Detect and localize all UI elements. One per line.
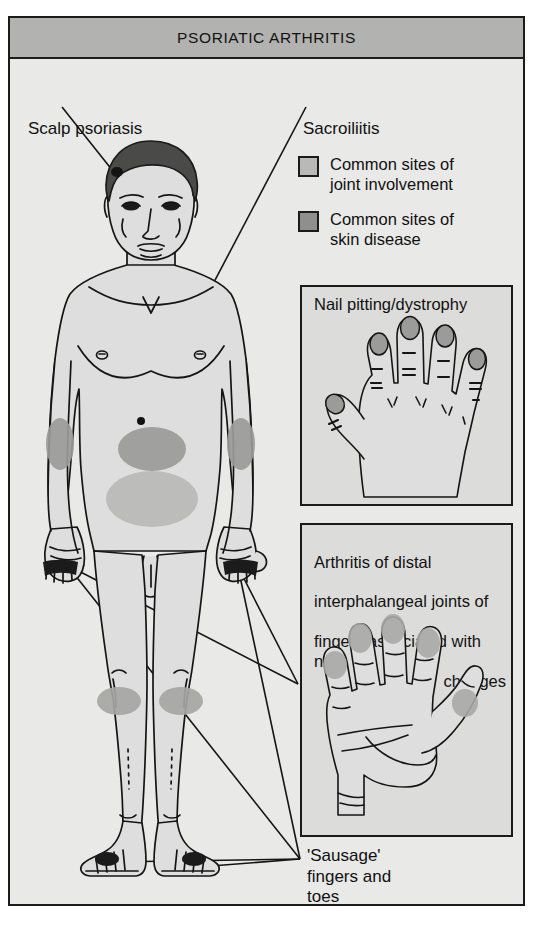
- upper-abdomen-patch: [118, 427, 186, 471]
- skin-disease-swatch: [298, 211, 319, 232]
- joint-involvement-swatch: [298, 156, 319, 177]
- sacroiliac-patch: [106, 471, 198, 527]
- panel-dip-arthritis: Arthritis of distal interphalangeal join…: [300, 523, 513, 837]
- left-foot-toe-marks: [95, 852, 119, 866]
- dorsal-hand-illustration: [302, 287, 511, 504]
- label-scalp-psoriasis: Scalp psoriasis: [28, 119, 142, 140]
- right-knee-patch: [159, 687, 203, 715]
- figure-title: PSORIATIC ARTHRITIS: [177, 29, 356, 47]
- figure-frame: PSORIATIC ARTHRITIS: [8, 16, 525, 906]
- legend-item-joint-involvement: Common sites of joint involvement: [298, 154, 513, 195]
- label-sacroiliitis: Sacroiliitis: [303, 119, 380, 140]
- legend-label-skin-disease: Common sites of skin disease: [330, 209, 454, 250]
- label-sausage-fingers-toes: 'Sausage' fingers and toes: [307, 846, 391, 908]
- panel-nail-pitting: Nail pitting/dystrophy: [300, 285, 513, 506]
- right-elbow-patch: [227, 418, 255, 470]
- figure-title-bar: PSORIATIC ARTHRITIS: [10, 18, 523, 59]
- leader-right-hand-sausage: [238, 567, 300, 859]
- sacroiliac-anchor-dot: [137, 417, 145, 425]
- palmar-hand-illustration: [302, 525, 511, 835]
- scalp-lesion-mark: [111, 167, 123, 177]
- psoriatic-arthritis-figure: PSORIATIC ARTHRITIS: [0, 0, 543, 931]
- leader-right-hand-dip: [238, 567, 298, 684]
- left-knee-patch: [97, 687, 141, 715]
- legend-item-skin-disease: Common sites of skin disease: [298, 209, 513, 250]
- legend-label-joint-involvement: Common sites of joint involvement: [330, 154, 454, 195]
- left-elbow-patch: [46, 418, 74, 470]
- figure-canvas: Scalp psoriasis Sacroiliitis 'Sausage' f…: [10, 59, 523, 904]
- right-foot-toe-marks: [182, 852, 206, 866]
- legend: Common sites of joint involvement Common…: [298, 154, 513, 264]
